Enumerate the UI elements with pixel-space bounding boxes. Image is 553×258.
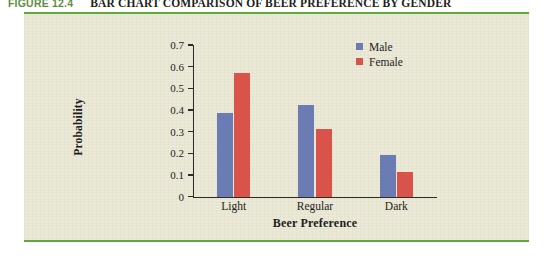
panel-texture: [24, 14, 529, 240]
rule-bottom: [24, 240, 529, 242]
figure-title: BAR CHART COMPARISON OF BEER PREFERENCE …: [73, 0, 451, 9]
chart-panel: [24, 14, 529, 240]
figure-caption: FIGURE 12.4 BAR CHART COMPARISON OF BEER…: [0, 0, 553, 11]
figure-number: FIGURE 12.4: [0, 0, 73, 9]
figure-container: FIGURE 12.4 BAR CHART COMPARISON OF BEER…: [0, 0, 553, 258]
